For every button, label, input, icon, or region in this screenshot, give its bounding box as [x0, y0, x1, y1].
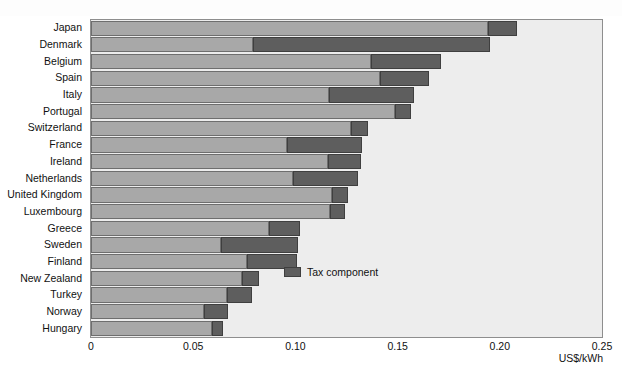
bar-segment-base-price: [91, 271, 242, 286]
bar-segment-tax-component: [332, 187, 348, 202]
bar-segment-tax-component: [395, 104, 411, 119]
stacked-bar[interactable]: [91, 321, 223, 336]
bar-segment-base-price: [91, 287, 227, 302]
legend: Tax component: [284, 266, 378, 278]
bar-row: [91, 153, 602, 170]
bar-segment-base-price: [91, 171, 293, 186]
stacked-bar[interactable]: [91, 121, 368, 136]
y-axis-label-ireland: Ireland: [0, 155, 82, 167]
bar-row: [91, 304, 602, 321]
bar-segment-tax-component: [253, 37, 490, 52]
y-axis-label-turkey: Turkey: [0, 288, 82, 300]
stacked-bar[interactable]: [91, 137, 362, 152]
stacked-bar[interactable]: [91, 237, 298, 252]
bar-segment-tax-component: [488, 21, 517, 36]
stacked-bar[interactable]: [91, 187, 348, 202]
bar-segment-tax-component: [330, 204, 345, 219]
y-axis-label-hungary: Hungary: [0, 322, 82, 334]
bar-segment-base-price: [91, 137, 287, 152]
x-axis-unit-label: US$/kWh: [0, 352, 603, 364]
x-axis-tick-0.05: 0.05: [183, 340, 203, 352]
stacked-bar[interactable]: [91, 37, 490, 52]
y-axis-label-portugal: Portugal: [0, 105, 82, 117]
y-axis-label-italy: Italy: [0, 88, 82, 100]
bar-segment-tax-component: [371, 54, 441, 69]
y-axis-label-luxembourg: Luxembourg: [0, 205, 82, 217]
bar-segment-base-price: [91, 21, 488, 36]
bar-segment-tax-component: [293, 171, 358, 186]
bar-segment-base-price: [91, 121, 351, 136]
bar-segment-base-price: [91, 104, 395, 119]
x-axis-tick-0.10: 0.10: [285, 340, 305, 352]
stacked-bar[interactable]: [91, 287, 252, 302]
y-axis-label-norway: Norway: [0, 305, 82, 317]
y-axis-label-netherlands: Netherlands: [0, 172, 82, 184]
bar-row: [91, 37, 602, 54]
bar-segment-base-price: [91, 321, 212, 336]
stacked-bar[interactable]: [91, 21, 517, 36]
stacked-bar[interactable]: [91, 221, 300, 236]
stacked-bar[interactable]: [91, 87, 414, 102]
bar-segment-tax-component: [204, 304, 228, 319]
bar-row: [91, 320, 602, 337]
bar-row: [91, 170, 602, 187]
bar-segment-base-price: [91, 54, 371, 69]
bar-segment-tax-component: [212, 321, 223, 336]
y-axis-label-france: France: [0, 138, 82, 150]
bar-segment-base-price: [91, 37, 253, 52]
y-axis-label-denmark: Denmark: [0, 38, 82, 50]
bar-segment-tax-component: [351, 121, 368, 136]
y-axis-label-greece: Greece: [0, 222, 82, 234]
bar-segment-base-price: [91, 221, 269, 236]
x-axis-tick-0.20: 0.20: [490, 340, 510, 352]
electricity-price-chart: JapanDenmarkBelgiumSpainItalyPortugalSwi…: [0, 0, 622, 372]
bar-row: [91, 137, 602, 154]
x-axis-tick-0.15: 0.15: [387, 340, 407, 352]
stacked-bar[interactable]: [91, 154, 361, 169]
stacked-bar[interactable]: [91, 254, 297, 269]
y-axis-label-new-zealand: New Zealand: [0, 272, 82, 284]
x-axis-tick-0.25: 0.25: [592, 340, 612, 352]
bar-row: [91, 204, 602, 221]
y-axis-label-switzerland: Switzerland: [0, 121, 82, 133]
bar-segment-base-price: [91, 154, 328, 169]
bar-row: [91, 120, 602, 137]
bar-segment-tax-component: [328, 154, 361, 169]
x-axis-tick-0: 0: [88, 340, 94, 352]
bar-row: [91, 287, 602, 304]
stacked-bar[interactable]: [91, 54, 441, 69]
bar-row: [91, 220, 602, 237]
stacked-bar[interactable]: [91, 171, 358, 186]
bar-row: [91, 53, 602, 70]
stacked-bar[interactable]: [91, 304, 228, 319]
plot-area: Tax component: [90, 19, 603, 338]
bar-segment-base-price: [91, 237, 221, 252]
bar-segment-base-price: [91, 71, 380, 86]
bar-segment-base-price: [91, 204, 330, 219]
scan-artifact-strip: [0, 0, 622, 16]
bar-row: [91, 70, 602, 87]
stacked-bar[interactable]: [91, 104, 411, 119]
stacked-bar[interactable]: [91, 271, 259, 286]
bar-row: [91, 20, 602, 37]
y-axis-label-sweden: Sweden: [0, 238, 82, 250]
bar-segment-base-price: [91, 187, 332, 202]
y-axis-labels: JapanDenmarkBelgiumSpainItalyPortugalSwi…: [0, 19, 86, 338]
y-axis-label-spain: Spain: [0, 71, 82, 83]
y-axis-label-finland: Finland: [0, 255, 82, 267]
stacked-bar[interactable]: [91, 71, 429, 86]
bar-segment-base-price: [91, 254, 247, 269]
stacked-bar[interactable]: [91, 204, 345, 219]
y-axis-label-japan: Japan: [0, 21, 82, 33]
y-axis-label-united-kingdom: United Kingdom: [0, 188, 82, 200]
bar-segment-tax-component: [287, 137, 362, 152]
legend-swatch-tax-component: [284, 267, 301, 277]
bar-segment-tax-component: [221, 237, 298, 252]
bar-segment-tax-component: [242, 271, 259, 286]
legend-label-tax-component: Tax component: [307, 266, 378, 278]
bar-segment-base-price: [91, 304, 204, 319]
bar-row: [91, 103, 602, 120]
bar-row: [91, 237, 602, 254]
bar-segment-tax-component: [227, 287, 253, 302]
bar-segment-tax-component: [329, 87, 414, 102]
